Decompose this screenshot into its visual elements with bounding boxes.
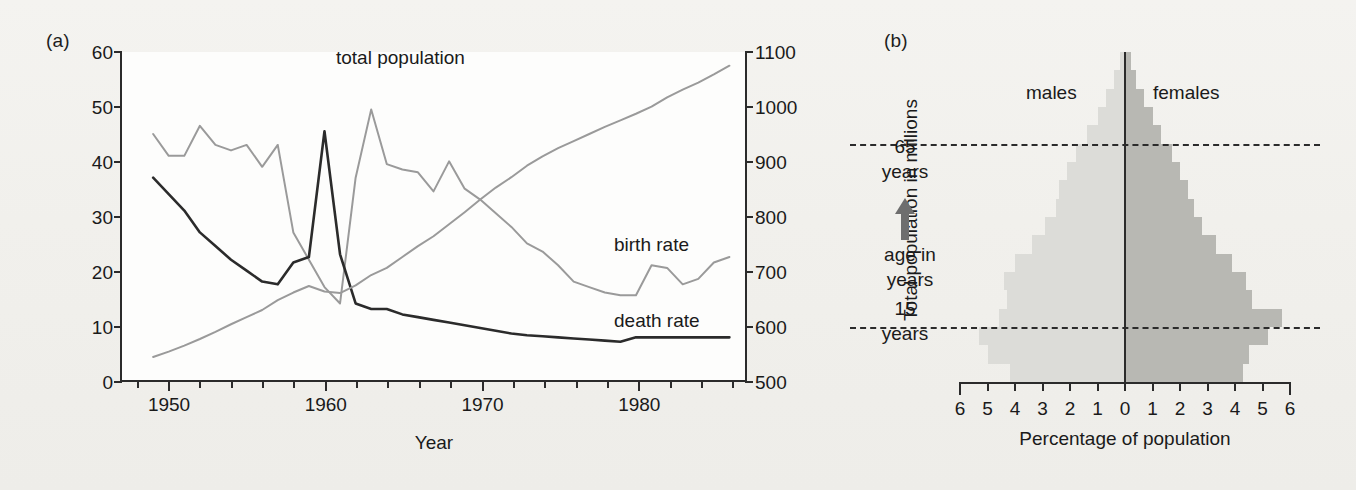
pyramid-bar-female (1125, 235, 1216, 253)
pyramid-x-tick-label: 5 (982, 398, 993, 420)
marker-15-value: 15 (860, 298, 950, 320)
males-label: males (1026, 82, 1077, 104)
pyramid-x-tick-label: 2 (1065, 398, 1076, 420)
panel-a-label: (a) (46, 30, 70, 52)
pyramid-x-tick-mark (1152, 382, 1154, 391)
y-left-tick-label: 20 (92, 263, 113, 282)
y-left-tick-label: 50 (92, 98, 113, 117)
x-tick-mark (168, 380, 170, 391)
pyramid-x-tick-label: 2 (1175, 398, 1186, 420)
pyramid-bar-female (1125, 217, 1202, 235)
pyramid-x-tick-label: 4 (1230, 398, 1241, 420)
pyramid-x-tick-mark (1124, 382, 1126, 391)
annotation-birth-rate: birth rate (614, 234, 689, 256)
pyramid-bar-female (1125, 125, 1161, 143)
x-tick-mark (419, 380, 421, 388)
y-left-tick-mark (114, 106, 122, 108)
y-left-tick-label: 60 (92, 43, 113, 62)
pyramid-bar-female (1125, 180, 1188, 198)
pyramid-bar-male (979, 327, 1125, 345)
x-tick-mark (670, 380, 672, 388)
pyramid-bar-male (1045, 217, 1125, 235)
pyramid-bar-female (1125, 162, 1180, 180)
marker-15-unit: years (860, 323, 950, 345)
y-right-tick-label: 900 (755, 153, 787, 172)
pyramid-x-tick-label: 1 (1092, 398, 1103, 420)
y-left-tick-label: 30 (92, 208, 113, 227)
x-tick-mark (638, 380, 640, 391)
panel-b-plot-area: 6543210123456 (960, 52, 1290, 382)
pyramid-bar-female (1125, 70, 1136, 88)
y-right-tick-mark (745, 381, 753, 383)
x-tick-mark (199, 380, 201, 388)
age-direction-arrow-icon (892, 196, 918, 242)
pyramid-bar-male (988, 345, 1126, 363)
y-right-tick-mark (745, 271, 753, 273)
y-right-tick-mark (745, 51, 753, 53)
pyramid-x-tick-label: 6 (1285, 398, 1296, 420)
pyramid-bar-male (1076, 144, 1126, 162)
pyramid-bar-male (1004, 272, 1125, 290)
figure-page: (a) Births and deaths per 1000 Total pop… (0, 0, 1356, 490)
x-tick-label: 1970 (461, 394, 503, 416)
pyramid-bar-male (1032, 235, 1126, 253)
panel-b-population-pyramid: (b) 6543210123456 males females 65 years… (840, 0, 1356, 490)
pyramid-bar-female (1125, 290, 1252, 308)
pyramid-x-tick-mark (1069, 382, 1071, 391)
pyramid-x-tick-mark (1014, 382, 1016, 391)
pyramid-x-tick-label: 6 (955, 398, 966, 420)
pyramid-bar-male (1087, 125, 1126, 143)
annotation-death-rate: death rate (614, 310, 700, 332)
pyramid-bar-female (1125, 144, 1172, 162)
pyramid-bar-female (1125, 272, 1246, 290)
pyramid-bar-female (1125, 309, 1282, 327)
x-tick-mark (293, 380, 295, 388)
pyramid-bar-male (999, 309, 1126, 327)
panel-a-plot-area: 0102030405060 50060070080090010001100 19… (120, 52, 747, 382)
y-right-tick-mark (745, 161, 753, 163)
pyramid-x-tick-mark (1179, 382, 1181, 391)
pyramid-x-tick-mark (1097, 382, 1099, 391)
y-left-tick-mark (114, 51, 122, 53)
pyramid-x-tick-label: 0 (1120, 398, 1131, 420)
panel-a-line-chart: (a) Births and deaths per 1000 Total pop… (0, 0, 840, 490)
pyramid-bar-female (1125, 327, 1268, 345)
panel-b-label: (b) (884, 30, 908, 52)
pyramid-x-tick-label: 5 (1257, 398, 1268, 420)
x-tick-mark (325, 380, 327, 391)
pyramid-x-tick-label: 3 (1037, 398, 1048, 420)
y-right-tick-label: 1000 (755, 98, 797, 117)
x-tick-mark (231, 380, 233, 388)
x-tick-mark (701, 380, 703, 388)
marker-65-unit: years (860, 161, 950, 183)
pyramid-bar-male (1015, 254, 1125, 272)
pyramid-x-tick-mark (987, 382, 989, 391)
females-label: females (1153, 82, 1220, 104)
pyramid-bar-female (1125, 89, 1144, 107)
pyramid-x-tick-label: 3 (1202, 398, 1213, 420)
pyramid-x-tick-mark (1042, 382, 1044, 391)
panel-a-x-axis-title: Year (415, 432, 453, 454)
x-tick-mark (513, 380, 515, 388)
pyramid-bar-female (1125, 364, 1243, 382)
y-right-tick-label: 600 (755, 318, 787, 337)
x-tick-label: 1950 (148, 394, 190, 416)
x-tick-mark (732, 380, 734, 388)
x-tick-label: 1960 (305, 394, 347, 416)
marker-65-value: 65 (860, 136, 950, 158)
x-tick-mark (450, 380, 452, 388)
pyramid-bar-male (1059, 180, 1125, 198)
pyramid-bar-female (1125, 345, 1249, 363)
x-tick-mark (607, 380, 609, 388)
pyramid-bar-male (1010, 364, 1126, 382)
x-tick-mark (544, 380, 546, 388)
x-tick-mark (482, 380, 484, 391)
y-right-tick-label: 800 (755, 208, 787, 227)
pyramid-bar-male (1056, 199, 1125, 217)
x-tick-mark (387, 380, 389, 388)
y-right-tick-mark (745, 106, 753, 108)
x-tick-mark (576, 380, 578, 388)
pyramid-bar-male (1007, 290, 1125, 308)
pyramid-bar-male (1067, 162, 1125, 180)
pyramid-bar-female (1125, 254, 1232, 272)
